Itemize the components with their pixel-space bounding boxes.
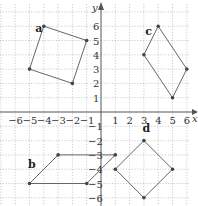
y-axis-label: y <box>91 2 98 13</box>
x-tick-label: 2 <box>127 115 133 126</box>
y-tick-label: 5 <box>93 36 99 47</box>
shape-label-a: a <box>35 22 42 35</box>
y-tick-label: −1 <box>88 121 103 132</box>
vertex-point <box>42 24 46 28</box>
vertex-point <box>142 196 146 200</box>
y-arrow-icon <box>98 2 104 10</box>
vertex-point <box>114 167 118 171</box>
y-tick-label: −2 <box>88 136 103 147</box>
x-tick-label: −2 <box>65 115 80 126</box>
x-tick-label: 1 <box>112 115 118 126</box>
vertex-point <box>85 39 89 43</box>
x-tick-label: 5 <box>170 115 176 126</box>
vertex-point <box>56 153 60 157</box>
x-tick-label: 6 <box>184 115 190 126</box>
vertex-point <box>171 167 175 171</box>
vertex-point <box>71 82 75 86</box>
shape-label-b: b <box>28 158 36 171</box>
vertex-point <box>185 67 189 71</box>
vertex-point <box>142 53 146 57</box>
vertex-point <box>114 153 118 157</box>
y-tick-label: 1 <box>93 93 99 104</box>
x-tick-label: −4 <box>37 115 52 126</box>
vertex-point <box>156 24 160 28</box>
y-tick-label: 2 <box>93 78 99 89</box>
x-tick-label: −6 <box>8 115 23 126</box>
vertex-point <box>28 67 32 71</box>
x-tick-label: −3 <box>51 115 66 126</box>
y-tick-label: 4 <box>93 50 99 61</box>
x-tick-label: −5 <box>23 115 38 126</box>
shape-label-c: c <box>145 25 152 38</box>
y-tick-label: 3 <box>93 64 99 75</box>
coordinate-grid: xy−6−5−4−3−2−1123456654321−1−2−3−4−5−6ab… <box>0 0 198 206</box>
x-axis-label: x <box>192 113 198 124</box>
x-tick-label: 4 <box>155 115 161 126</box>
y-tick-label: −6 <box>88 193 103 204</box>
shape-label-d: d <box>142 122 150 135</box>
vertex-point <box>28 182 32 186</box>
y-tick-label: 6 <box>93 21 99 32</box>
vertex-point <box>171 96 175 100</box>
vertex-point <box>85 182 89 186</box>
vertex-point <box>142 139 146 143</box>
